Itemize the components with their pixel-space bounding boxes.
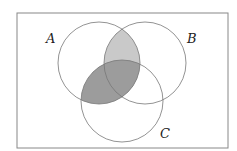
venn-diagram: A B C (0, 0, 237, 151)
label-b: B (186, 31, 197, 46)
label-c: C (160, 126, 170, 141)
label-a: A (45, 31, 55, 46)
